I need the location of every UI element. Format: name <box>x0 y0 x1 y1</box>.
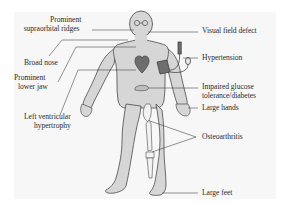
label-hypertension: Hypertension <box>202 54 242 63</box>
skeleton-leg-bones <box>143 104 154 178</box>
label-broad-nose: Broad nose <box>24 59 58 68</box>
leader-line-lvh-diag <box>60 70 78 115</box>
body-silhouette <box>83 11 187 195</box>
acromegaly-features-diagram: Prominent supraorbital ridges Broad nose… <box>0 0 285 205</box>
label-prominent-lower-jaw: Prominent lower jaw <box>14 74 48 91</box>
label-visual-field-defect: Visual field defect <box>202 27 257 36</box>
label-lvh-line2: hypertrophy <box>24 122 71 131</box>
leader-line-osteo-hip <box>150 121 196 137</box>
label-lower-jaw-line2: lower jaw <box>14 83 48 92</box>
label-left-ventricular-hypertrophy: Left ventricular hypertrophy <box>24 113 71 130</box>
label-supraorbital-ridges: Prominent supraorbital ridges <box>22 16 81 33</box>
label-impaired-glucose-tolerance: Impaired glucose tolerance/diabetes <box>202 83 256 100</box>
pancreas-icon <box>135 85 149 90</box>
label-large-hands: Large hands <box>202 104 239 113</box>
leader-line-lower-jaw-diag <box>58 47 76 82</box>
leader-line-osteo-knee <box>152 137 196 152</box>
label-glucose-line2: tolerance/diabetes <box>202 92 256 101</box>
label-supraorbital-line2: supraorbital ridges <box>22 25 81 34</box>
label-osteoarthritis: Osteoarthritis <box>202 133 243 142</box>
leader-line-broad-nose-diag <box>49 40 62 56</box>
label-large-feet: Large feet <box>202 189 232 198</box>
